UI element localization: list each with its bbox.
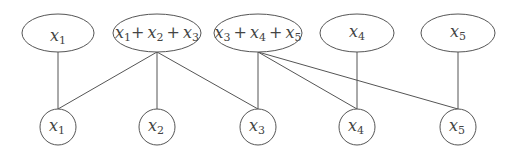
top-node-x4: x4: [320, 14, 394, 52]
top-node-x3-plus-x4-plus-x5: x3+x4+x5: [214, 14, 302, 52]
edge-t3-b5: [258, 52, 458, 109]
top-node-x1-plus-x2-plus-x3: x1+x2+x3: [113, 14, 201, 52]
edge-t2-b1: [58, 52, 157, 109]
bottom-node-x1: x1: [40, 109, 76, 145]
top-node-x1: x1: [22, 14, 94, 52]
bottom-node-x3: x3: [240, 109, 276, 145]
bipartite-graph-diagram: x1 x1+x2+x3 x3+x4+x5 x4 x5 x1 x2 x3 x4 x…: [0, 0, 513, 154]
edges: [58, 52, 458, 109]
edge-t2-b3: [157, 52, 258, 109]
bottom-node-x5: x5: [440, 109, 476, 145]
bottom-node-x4: x4: [339, 109, 375, 145]
bottom-node-x2: x2: [139, 109, 175, 145]
top-node-x5: x5: [421, 14, 495, 52]
edge-t3-b4: [258, 52, 357, 109]
